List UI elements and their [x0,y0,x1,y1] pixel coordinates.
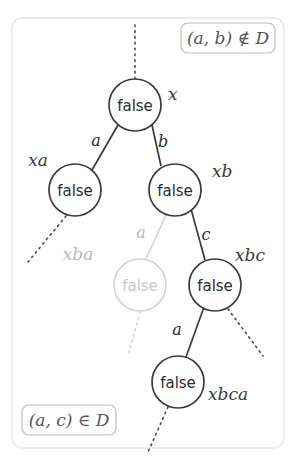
node-root-value: false [117,97,153,115]
annotation-top-right-text: (a, b) ∉ D [187,28,269,48]
edge-xbc-xbca [186,307,204,357]
node-xba-value: false [122,277,158,295]
node-xbc-value: false [197,277,233,295]
node-path-labels: x xa xb xba xbc xbca [28,84,265,404]
edge-xb-xba [146,215,166,259]
edge-label-xb-xbc: c [202,225,211,244]
path-label-x: x [168,84,178,104]
node-xbca-value: false [160,374,196,392]
edge-label-root-xa: a [91,131,101,150]
dotted-edge-below-xbca [148,407,168,452]
path-label-xba: xba [63,244,94,264]
node-xa-value: false [57,182,93,200]
path-label-xbca: xbca [208,384,248,404]
dotted-edge-below-xba [128,312,140,356]
annotation-bottom-left: (a, c) ∈ D [22,405,116,435]
edge-label-xb-xba: a [136,223,146,242]
path-label-xbc: xbc [235,245,265,265]
path-label-xb: xb [212,161,232,181]
tree-diagram-canvas: false false false false false false x xa… [0,0,296,460]
annotation-bottom-left-text: (a, c) ∈ D [29,410,110,430]
dotted-edge-below-xbc [228,309,263,356]
path-label-xa: xa [28,150,48,170]
node-xb-value: false [157,182,193,200]
edge-label-xbc-xbca: a [172,320,182,339]
tree-diagram-figure: false false false false false false x xa… [0,0,296,460]
tree-edges [92,125,205,357]
edge-label-root-xb: b [158,132,168,151]
dotted-edge-below-xa [28,216,66,262]
annotation-top-right: (a, b) ∉ D [181,23,275,53]
